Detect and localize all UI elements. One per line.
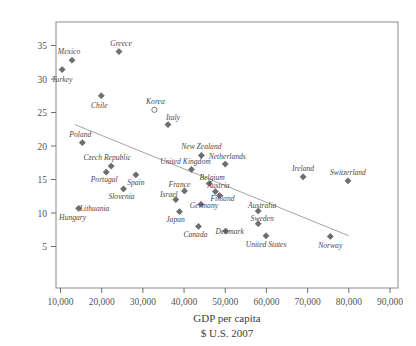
y-axis-tick-labels: 5101520253035	[38, 41, 48, 252]
data-point-label: Ireland	[291, 164, 314, 173]
data-point-label: Poland	[68, 130, 91, 139]
y-tick-label: 35	[38, 41, 48, 51]
y-tick-label: 25	[38, 108, 48, 118]
y-tick-label: 15	[38, 175, 48, 185]
x-tick-label: 30,000	[130, 297, 156, 307]
cropped-header-remnant	[120, 0, 240, 2]
x-tick-label: 60,000	[253, 297, 279, 307]
data-point-marker	[59, 67, 65, 73]
data-point-label: Canada	[183, 230, 207, 239]
data-point-label: Chile	[91, 101, 108, 110]
data-point-label: Turkey	[52, 75, 73, 84]
data-point-marker	[165, 121, 171, 127]
x-tick-label: 90,000	[377, 297, 403, 307]
data-point-marker	[327, 233, 333, 239]
data-point-label: Czech Republic	[83, 153, 131, 162]
data-point-label: France	[168, 180, 192, 189]
x-axis-ticks	[61, 288, 391, 293]
data-point-label: Austria	[206, 181, 230, 190]
data-point-label: Slovenia	[108, 192, 134, 201]
x-tick-label: 50,000	[212, 297, 238, 307]
data-point-label: Norway	[317, 241, 343, 250]
data-point-marker	[345, 178, 351, 184]
y-tick-label: 5	[42, 242, 47, 252]
data-point-label: Sweden	[251, 214, 274, 223]
data-point-marker	[263, 233, 269, 239]
data-point-label: United States	[246, 240, 287, 249]
data-point-marker	[195, 223, 201, 229]
data-point-label: Israel	[159, 190, 178, 199]
data-point-marker	[69, 57, 75, 63]
data-point-marker	[300, 174, 306, 180]
y-tick-label: 30	[38, 75, 48, 85]
x-axis-title-line2: $ U.S. 2007	[201, 327, 254, 339]
y-tick-label: 20	[38, 142, 48, 152]
data-point-labels: TurkeyMexicoGreeceChileKoreaItalyPolandC…	[52, 39, 366, 251]
data-point-label: Spain	[127, 178, 145, 187]
data-point-label: Japan	[166, 215, 185, 224]
x-axis-title-line1: GDP per capita	[193, 312, 261, 324]
data-point-label: Switzerland	[330, 168, 366, 177]
x-tick-label: 70,000	[295, 297, 321, 307]
data-point-marker	[222, 161, 228, 167]
data-point-label: Korea	[145, 97, 165, 106]
x-axis-tick-labels: 10,00020,00030,00040,00050,00060,00070,0…	[47, 297, 403, 307]
x-tick-label: 20,000	[89, 297, 115, 307]
data-point-label: Germany	[190, 201, 219, 210]
data-point-label: New Zealand	[180, 142, 221, 151]
gdp-per-capita-scatter-chart: 10,00020,00030,00040,00050,00060,00070,0…	[0, 0, 416, 346]
x-tick-label: 40,000	[171, 297, 197, 307]
data-point-label: Greece	[110, 39, 132, 48]
y-tick-label: 10	[38, 209, 48, 219]
data-point-label: Denmark	[215, 227, 245, 236]
data-point-label: Hungary	[58, 213, 87, 222]
data-point-label: Lithuania	[79, 204, 110, 213]
data-point-marker-open	[152, 107, 157, 112]
data-point-marker	[79, 140, 85, 146]
x-tick-label: 80,000	[336, 297, 362, 307]
data-point-label: United Kingdom	[160, 157, 211, 166]
data-point-label: Netherlands	[208, 152, 246, 161]
data-point-label: Australia	[247, 201, 276, 210]
data-point-marker	[116, 48, 122, 54]
data-point-marker	[98, 93, 104, 99]
scatter-plot-figure: 10,00020,00030,00040,00050,00060,00070,0…	[0, 0, 416, 346]
data-point-marker	[188, 166, 194, 172]
data-point-label: Portugal	[90, 175, 118, 184]
data-point-marker	[108, 163, 114, 169]
data-point-label: Mexico	[57, 47, 81, 56]
x-tick-label: 10,000	[47, 297, 73, 307]
data-point-label: Italy	[165, 113, 181, 122]
